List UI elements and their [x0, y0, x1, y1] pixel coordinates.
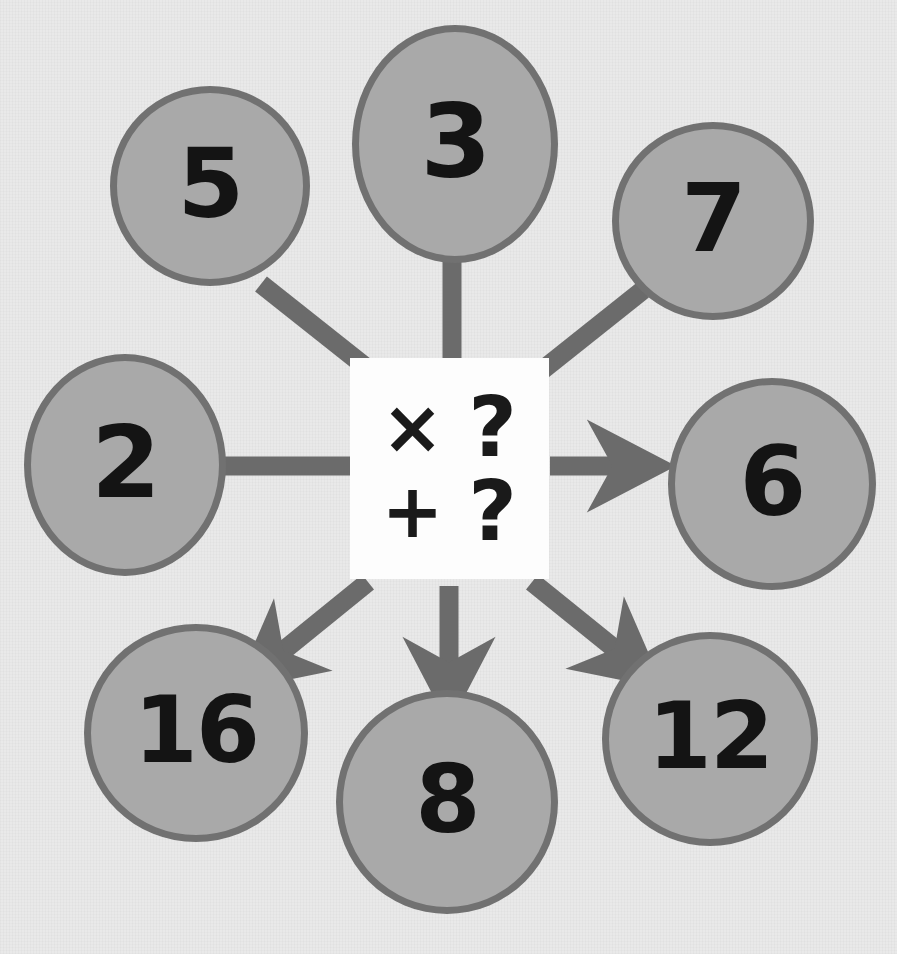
- node-2-label: 2: [91, 413, 159, 513]
- node-16-label: 16: [134, 685, 258, 777]
- node-16[interactable]: 16: [84, 624, 308, 842]
- node-8[interactable]: 8: [336, 690, 558, 914]
- edge-center-to-12: [532, 582, 636, 666]
- node-7[interactable]: 7: [612, 122, 814, 320]
- operation-row-multiply: × ?: [370, 385, 530, 469]
- node-5[interactable]: 5: [110, 86, 310, 286]
- puzzle-diagram-canvas: 5 3 7 2 6 16 8 12 × ? + ?: [0, 0, 897, 954]
- node-6[interactable]: 6: [668, 378, 876, 590]
- edge-7-to-center: [540, 290, 643, 372]
- node-2[interactable]: 2: [24, 354, 226, 576]
- node-3-label: 3: [421, 91, 490, 193]
- node-7-label: 7: [681, 172, 745, 266]
- multiply-unknown-value: ?: [456, 385, 530, 469]
- node-5-label: 5: [178, 136, 243, 232]
- node-12-label: 12: [648, 691, 772, 783]
- operation-row-add: + ?: [370, 469, 530, 553]
- node-6-label: 6: [740, 434, 805, 530]
- multiply-icon: ×: [370, 390, 456, 464]
- plus-icon: +: [370, 474, 456, 548]
- node-3[interactable]: 3: [352, 25, 558, 263]
- add-unknown-value: ?: [456, 469, 530, 553]
- edge-center-to-16: [262, 582, 368, 668]
- node-12[interactable]: 12: [602, 632, 818, 846]
- operation-box[interactable]: × ? + ?: [350, 358, 549, 579]
- node-8-label: 8: [415, 753, 479, 847]
